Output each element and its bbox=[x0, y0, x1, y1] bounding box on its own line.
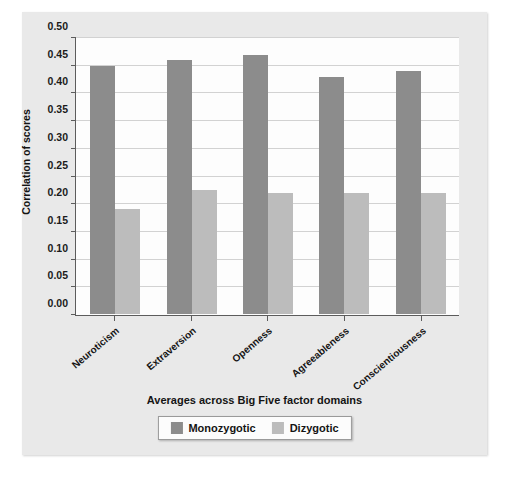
y-tick-mark bbox=[71, 120, 76, 121]
y-tick-label: 0.45 bbox=[48, 48, 68, 60]
x-label-slot: Conscientiousness bbox=[396, 316, 446, 386]
chart-legend: MonozygoticDizygotic bbox=[157, 416, 351, 440]
y-tick-mark bbox=[71, 176, 76, 177]
y-tick-label: 0.00 bbox=[48, 297, 68, 309]
legend-entry-dizygotic[interactable]: Dizygotic bbox=[272, 422, 339, 434]
legend-label: Monozygotic bbox=[188, 422, 255, 434]
x-tick-label-text: Agreeableness bbox=[290, 325, 352, 379]
bar-dizygotic-extraversion bbox=[192, 190, 217, 314]
bar-group bbox=[243, 38, 293, 314]
x-tick-label-text: Openness bbox=[230, 325, 274, 365]
bar-group bbox=[167, 38, 217, 314]
y-tick-mark bbox=[71, 92, 76, 93]
x-label-slot: Openness bbox=[242, 316, 292, 386]
y-tick-mark bbox=[71, 314, 76, 315]
x-label-slot: Extraversion bbox=[166, 316, 216, 386]
y-tick-label: 0.20 bbox=[48, 186, 68, 198]
y-tick-label: 0.25 bbox=[48, 159, 68, 171]
y-tick-mark bbox=[71, 37, 76, 38]
bar-groups bbox=[77, 38, 459, 314]
y-tick-mark bbox=[71, 259, 76, 260]
legend-entry-monozygotic[interactable]: Monozygotic bbox=[170, 422, 255, 434]
bar-dizygotic-neuroticism bbox=[115, 209, 140, 314]
plot-area: 0.000.050.100.150.200.250.300.350.400.45… bbox=[75, 38, 459, 316]
y-tick-label: 0.35 bbox=[48, 103, 68, 115]
x-tick-label-text: Neuroticism bbox=[70, 325, 121, 371]
y-tick-label: 0.15 bbox=[48, 214, 68, 226]
legend-label: Dizygotic bbox=[290, 422, 339, 434]
y-tick-mark bbox=[71, 231, 76, 232]
bar-group bbox=[90, 38, 140, 314]
y-tick-label: 0.40 bbox=[48, 75, 68, 87]
x-tick-label-text: Extraversion bbox=[144, 325, 197, 372]
bar-group bbox=[396, 38, 446, 314]
y-tick-label: 0.10 bbox=[48, 242, 68, 254]
bar-dizygotic-conscientiousness bbox=[421, 193, 446, 314]
legend-swatch-icon bbox=[170, 422, 182, 434]
bar-monozygotic-conscientiousness bbox=[396, 71, 421, 314]
y-tick-mark bbox=[71, 65, 76, 66]
bar-monozygotic-openness bbox=[243, 55, 268, 314]
legend-swatch-icon bbox=[272, 422, 284, 434]
bar-monozygotic-agreeableness bbox=[319, 77, 344, 314]
y-tick-label: 0.30 bbox=[48, 131, 68, 143]
y-tick-mark bbox=[71, 286, 76, 287]
bar-dizygotic-openness bbox=[268, 193, 293, 314]
bar-monozygotic-extraversion bbox=[167, 60, 192, 314]
y-tick-mark bbox=[71, 203, 76, 204]
y-axis-title: Correlation of scores bbox=[20, 109, 32, 215]
x-label-slot: Neuroticism bbox=[89, 316, 139, 386]
bar-group bbox=[319, 38, 369, 314]
x-axis-labels: NeuroticismExtraversionOpennessAgreeable… bbox=[76, 316, 459, 386]
y-tick-mark bbox=[71, 148, 76, 149]
y-tick-label: 0.50 bbox=[48, 20, 68, 32]
chart-figure: Correlation of scores 0.000.050.100.150.… bbox=[22, 12, 487, 455]
bar-dizygotic-agreeableness bbox=[344, 193, 369, 314]
bar-monozygotic-neuroticism bbox=[90, 66, 115, 314]
y-tick-label: 0.05 bbox=[48, 269, 68, 281]
plot-wrapper: 0.000.050.100.150.200.250.300.350.400.45… bbox=[75, 38, 459, 316]
x-axis-title: Averages across Big Five factor domains bbox=[22, 394, 487, 406]
